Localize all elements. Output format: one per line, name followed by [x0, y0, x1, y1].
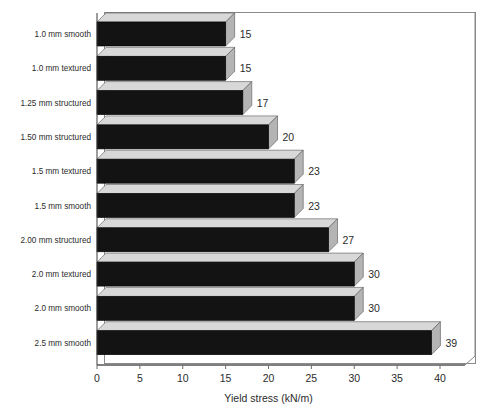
category-label: 2.0 mm textured [32, 270, 92, 279]
bar-top-face [97, 287, 363, 296]
bar-top-face [97, 322, 440, 331]
bar-value-label: 23 [308, 200, 320, 212]
bar-5[interactable] [97, 185, 303, 218]
bar-front-face [97, 296, 354, 320]
bar-9[interactable] [97, 322, 440, 355]
category-label: 1.0 mm textured [32, 64, 92, 73]
bar-7[interactable] [97, 253, 363, 286]
bar-front-face [97, 91, 243, 115]
bar-front-face [97, 159, 294, 183]
bar-front-face [97, 228, 329, 252]
x-axis-title: Yield stress (kN/m) [224, 392, 312, 404]
bar-front-face [97, 331, 431, 355]
bar-top-face [97, 219, 338, 228]
bar-0[interactable] [97, 13, 235, 46]
chart-canvas: 151.0 mm smooth151.0 mm textured171.25 m… [0, 0, 489, 417]
bar-front-face [97, 194, 294, 218]
x-tick-label: 25 [306, 372, 318, 384]
bar-6[interactable] [97, 219, 338, 252]
bar-2[interactable] [97, 82, 252, 115]
bar-top-face [97, 253, 363, 262]
category-label: 2.5 mm smooth [35, 339, 92, 348]
category-label: 1.0 mm smooth [35, 30, 92, 39]
bar-value-label: 17 [257, 97, 269, 109]
bar-value-label: 30 [368, 302, 380, 314]
category-label: 1.25 mm structured [20, 99, 91, 108]
category-label: 1.5 mm smooth [35, 202, 92, 211]
bar-top-face [97, 116, 278, 125]
bar-value-label: 15 [240, 62, 252, 74]
bar-top-face [97, 13, 235, 22]
bar-top-face [97, 82, 252, 91]
bar-front-face [97, 125, 269, 149]
x-tick-label: 40 [434, 372, 446, 384]
bar-1[interactable] [97, 47, 235, 80]
bar-front-face [97, 22, 226, 46]
bar-front-face [97, 56, 226, 80]
bar-value-label: 30 [368, 268, 380, 280]
bar-front-face [97, 262, 354, 286]
x-tick-label: 30 [348, 372, 360, 384]
bar-top-face [97, 185, 303, 194]
bar-value-label: 20 [283, 131, 295, 143]
bars-layer [97, 13, 440, 355]
bar-value-label: 23 [308, 165, 320, 177]
x-tick-label: 20 [263, 372, 275, 384]
bar-value-label: 27 [343, 234, 355, 246]
bar-4[interactable] [97, 150, 303, 183]
category-label: 2.0 mm smooth [35, 304, 92, 313]
x-tick-label: 10 [177, 372, 189, 384]
x-tick-label: 15 [220, 372, 232, 384]
bar-chart-figure: 151.0 mm smooth151.0 mm textured171.25 m… [0, 0, 489, 417]
bar-top-face [97, 150, 303, 159]
x-tick-label: 5 [137, 372, 143, 384]
bar-value-label: 15 [240, 28, 252, 40]
bar-value-label: 39 [445, 337, 457, 349]
category-label: 1.50 mm structured [20, 133, 91, 142]
x-tick-label: 0 [94, 372, 100, 384]
bar-8[interactable] [97, 287, 363, 320]
category-label: 2.00 mm structured [20, 236, 91, 245]
bar-top-face [97, 47, 235, 56]
x-tick-label: 35 [391, 372, 403, 384]
category-label: 1.5 mm textured [32, 167, 92, 176]
bar-3[interactable] [97, 116, 278, 149]
